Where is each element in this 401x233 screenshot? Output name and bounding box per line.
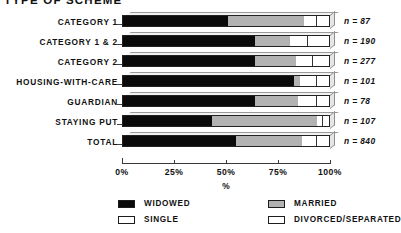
legend-item-widowed[interactable]: WIDOWED [118,199,190,208]
bar-segment-widowed [123,56,255,66]
stacked-bar [122,15,330,27]
category-label: HOUSING-WITH-CARE [16,77,118,87]
x-tick-label: 100% [318,167,342,177]
x-tick [278,160,279,164]
sample-size-label: n = 840 [344,136,375,146]
x-tick-label: 50% [217,167,236,177]
bar-shelf-side [330,91,335,109]
sample-size-label: n = 107 [344,116,375,126]
bar-shelf-side [330,131,335,149]
bar-row: TOTALn = 840 [0,134,396,154]
stacked-bar [122,35,330,47]
x-tick-label: 0% [115,167,128,177]
sample-size-label: n = 277 [344,56,375,66]
bar-segment-married [212,116,317,126]
bar-row: GUARDIANn = 78 [0,94,396,114]
bar-segment-divorced [317,76,329,86]
x-tick [226,160,227,164]
x-tick-label: 75% [269,167,288,177]
stacked-bar [122,135,330,147]
bar-segment-divorced [323,116,329,126]
bar-segment-married [228,16,304,26]
bar-segment-divorced [313,56,329,66]
x-tick [330,160,331,164]
category-label: TOTAL [87,137,118,147]
bar-segment-divorced [308,36,329,46]
category-label: CATEGORY 1 & 2 [39,37,118,47]
bar-row: CATEGORY 1n = 87 [0,14,396,34]
bar-segment-married [255,56,296,66]
stacked-bar [122,55,330,67]
sample-size-label: n = 101 [344,76,375,86]
bar-segment-married [236,136,302,146]
bar-row: STAYING PUTn = 107 [0,114,396,134]
category-label: CATEGORY 1 [58,17,118,27]
white-swatch [268,216,285,224]
bar-segment-divorced [317,96,329,106]
category-label: CATEGORY 2 [58,57,118,67]
category-label: STAYING PUT [55,117,118,127]
x-tick-label: 25% [165,167,184,177]
bar-row: CATEGORY 2n = 277 [0,54,396,74]
stacked-bar [122,75,330,87]
bar-segment-widowed [123,36,255,46]
bar-shelf-side [330,31,335,49]
bar-segment-single [304,16,316,26]
bar-segment-married [255,36,290,46]
legend-item-married[interactable]: MARRIED [268,199,337,208]
bar-segment-widowed [123,16,228,26]
bar-row: HOUSING-WITH-CAREn = 101 [0,74,396,94]
bar-segment-widowed [123,96,255,106]
bar-segment-widowed [123,136,236,146]
category-label: GUARDIAN [67,97,118,107]
x-axis-title: % [222,181,229,191]
sample-size-label: n = 78 [344,96,370,106]
sample-size-label: n = 87 [344,16,370,26]
grey-swatch [268,200,285,208]
legend-label: SINGLE [144,215,179,224]
bar-segment-widowed [123,116,212,126]
stacked-bar [122,95,330,107]
bar-shelf-side [330,71,335,89]
bar-row: CATEGORY 1 & 2n = 190 [0,34,396,54]
legend-label: WIDOWED [144,199,190,208]
stacked-bar [122,115,330,127]
legend-label: MARRIED [294,199,337,208]
bar-segment-single [296,56,312,66]
bar-segment-widowed [123,76,294,86]
bar-segment-divorced [317,136,329,146]
legend-item-divorced[interactable]: DIVORCED/SEPARATED [268,215,401,224]
sample-size-label: n = 190 [344,36,375,46]
bar-segment-married [255,96,298,106]
legend-item-single[interactable]: SINGLE [118,215,179,224]
black-swatch [118,200,135,208]
white-swatch [118,216,135,224]
bar-segment-single [302,136,316,146]
x-tick [122,160,123,164]
bar-segment-single [300,76,316,86]
bar-shelf-side [330,111,335,129]
x-tick [174,160,175,164]
bar-segment-single [298,96,317,106]
chart-legend: WIDOWEDMARRIEDSINGLEDIVORCED/SEPARATED [118,199,386,229]
bar-segment-divorced [317,16,329,26]
bar-shelf-side [330,51,335,69]
legend-label: DIVORCED/SEPARATED [294,215,401,224]
bar-segment-single [290,36,309,46]
bar-shelf-side [330,11,335,29]
